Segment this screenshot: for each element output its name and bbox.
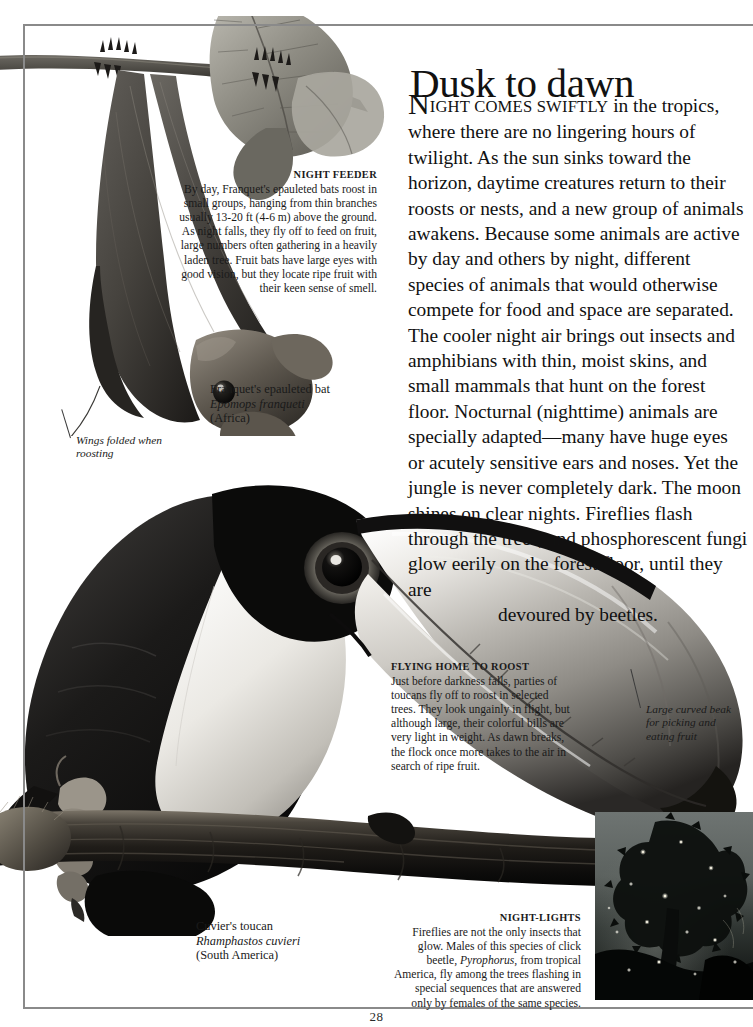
intro-smallcaps: IGHT COMES SWIFTLY	[430, 97, 609, 116]
species-bat-region: (Africa)	[210, 411, 330, 426]
species-toucan-common-name: Cuvier's toucan	[196, 919, 300, 934]
book-page: Dusk to dawn NIGHT COMES SWIFTLY in the …	[0, 0, 753, 1027]
leader-line-wings	[61, 409, 71, 438]
caption-night-feeder-body: By day, Franquet's epauleted bats roost …	[179, 183, 377, 295]
caption-flying-home-to-roost: FLYING HOME TO ROOST Just before darknes…	[391, 660, 571, 774]
species-label-toucan: Cuvier's toucan Rhamphastos cuvieri (Sou…	[196, 919, 300, 963]
intro-paragraph: NIGHT COMES SWIFTLY in the tropics, wher…	[408, 92, 748, 628]
caption-night-feeder-heading: NIGHT FEEDER	[165, 168, 377, 182]
leader-line-beak	[630, 669, 641, 708]
species-toucan-region: (South America)	[196, 948, 300, 963]
page-border-top	[23, 24, 753, 26]
caption-flying-home-heading: FLYING HOME TO ROOST	[391, 660, 571, 674]
caption-night-feeder: NIGHT FEEDER By day, Franquet's epaulete…	[165, 168, 377, 296]
caption-night-lights-genus: Pyrophorus	[460, 954, 514, 967]
annotation-large-curved-beak: Large curved beak for picking and eating…	[646, 703, 746, 743]
intro-last-line: devoured by beetles.	[408, 602, 748, 627]
species-label-bat: Franquet's epauleted bat Epomops franque…	[210, 382, 330, 426]
species-bat-scientific-name: Epomops franqueti	[210, 397, 330, 412]
caption-flying-home-body: Just before darkness falls, parties of t…	[391, 675, 570, 773]
species-bat-common-name: Franquet's epauleted bat	[210, 382, 330, 397]
caption-night-lights: NIGHT-LIGHTSFireflies are not the only i…	[393, 911, 581, 1011]
drop-cap: N	[408, 87, 430, 120]
firefly-night-photo	[595, 812, 753, 1000]
page-number: 28	[0, 1009, 753, 1025]
intro-body: in the tropics, where there are no linge…	[408, 95, 747, 600]
caption-night-lights-heading: NIGHT-LIGHTS	[393, 911, 581, 925]
species-toucan-scientific-name: Rhamphastos cuvieri	[196, 934, 300, 949]
annotation-wings-folded: Wings folded when roosting	[76, 434, 186, 461]
page-border-left	[23, 24, 25, 1008]
